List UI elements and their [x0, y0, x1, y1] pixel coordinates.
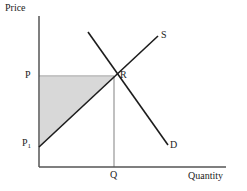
chart-canvas: [0, 0, 247, 191]
supply-curve-label: S: [161, 30, 167, 40]
equilibrium-point-label: R: [120, 70, 127, 80]
supply-demand-figure: Price Quantity P P1 Q R S D: [0, 0, 247, 191]
demand-curve-label: D: [170, 140, 177, 150]
y-axis-label: Price: [5, 3, 26, 13]
price-low-label: P1: [22, 138, 31, 150]
x-axis-label: Quantity: [188, 171, 223, 181]
quantity-equilibrium-label: Q: [110, 170, 117, 180]
price-equilibrium-label: P: [25, 70, 31, 80]
price-low-subscript: 1: [28, 142, 32, 150]
